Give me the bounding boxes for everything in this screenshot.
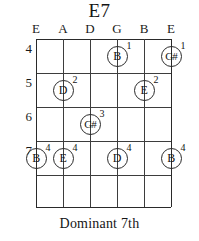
note-marker[interactable]: B1 — [107, 46, 128, 67]
note-name: B — [26, 148, 47, 169]
finger-number: 2 — [154, 75, 159, 85]
finger-number: 2 — [73, 75, 78, 85]
note-marker[interactable]: G#1 — [161, 46, 182, 67]
finger-number: 3 — [100, 109, 105, 119]
note-name: G# — [80, 114, 101, 135]
note-name: E — [134, 80, 155, 101]
finger-number: 1 — [127, 41, 132, 51]
note-name: D — [53, 80, 74, 101]
note-name: B — [161, 148, 182, 169]
chord-caption: Dominant 7th — [0, 216, 199, 232]
finger-number: 4 — [181, 143, 186, 153]
note-marker[interactable]: B4 — [26, 148, 47, 169]
note-name: E — [53, 148, 74, 169]
note-marker[interactable]: G#3 — [80, 114, 101, 135]
note-name: B — [107, 46, 128, 67]
finger-number: 4 — [127, 143, 132, 153]
finger-number: 4 — [73, 143, 78, 153]
note-marker[interactable]: B4 — [161, 148, 182, 169]
note-marker[interactable]: D4 — [107, 148, 128, 169]
chord-diagram: E7 EADGBE 4567 B1G#1D2E2G#3B4E4D4B4 Domi… — [0, 0, 199, 241]
note-marker[interactable]: D2 — [53, 80, 74, 101]
finger-number: 1 — [181, 41, 186, 51]
finger-number: 4 — [46, 143, 51, 153]
note-marker-layer: B1G#1D2E2G#3B4E4D4B4 — [0, 0, 199, 241]
note-name: G# — [161, 46, 182, 67]
note-marker[interactable]: E2 — [134, 80, 155, 101]
note-marker[interactable]: E4 — [53, 148, 74, 169]
note-name: D — [107, 148, 128, 169]
